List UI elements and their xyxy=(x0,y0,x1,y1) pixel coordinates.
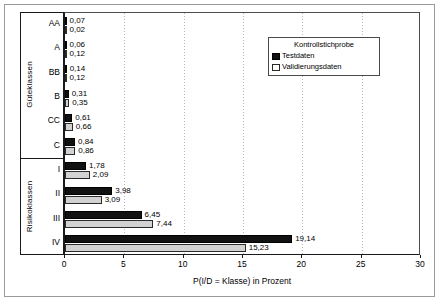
category-label-IV: IV xyxy=(20,238,64,247)
bar-value-label-AA-validierungsdaten: 0,02 xyxy=(70,26,86,34)
legend-label-validierungsdaten: Validierungsdaten xyxy=(282,62,342,72)
bar-BB-testdaten xyxy=(65,65,67,73)
legend-entry-testdaten: Testdaten xyxy=(272,51,376,61)
bar-CC-validierungsdaten xyxy=(65,123,73,131)
bar-value-label-C-validierungsdaten: 0,86 xyxy=(78,147,94,155)
bar-value-label-II-testdaten: 3,98 xyxy=(115,187,131,195)
bar-C-validierungsdaten xyxy=(65,147,75,155)
bar-value-label-I-validierungsdaten: 2,09 xyxy=(93,171,109,179)
bar-value-label-I-testdaten: 1,78 xyxy=(89,162,105,170)
bar-II-validierungsdaten xyxy=(65,196,102,204)
category-label-CC: CC xyxy=(20,116,64,125)
bar-value-label-CC-validierungsdaten: 0,66 xyxy=(76,123,92,131)
legend-label-testdaten: Testdaten xyxy=(282,51,315,61)
x-tick-label-5: 5 xyxy=(121,259,126,269)
bar-value-label-CC-testdaten: 0,61 xyxy=(75,114,91,122)
group-label-gueteklassen: Güteklassen xyxy=(22,12,36,158)
bar-value-label-II-validierungsdaten: 3,09 xyxy=(105,196,121,204)
x-tick-label-10: 10 xyxy=(178,259,187,269)
category-label-B: B xyxy=(20,92,64,101)
x-tick-10 xyxy=(183,255,184,258)
bar-CC-testdaten xyxy=(65,114,72,122)
bar-value-label-AA-testdaten: 0,07 xyxy=(70,17,86,25)
x-tick-20 xyxy=(301,255,302,258)
bar-A-testdaten xyxy=(65,41,67,49)
bar-I-validierungsdaten xyxy=(65,171,90,179)
category-label-AA: AA xyxy=(20,19,64,28)
x-tick-label-0: 0 xyxy=(62,259,67,269)
x-tick-15 xyxy=(242,255,243,258)
x-axis-title: P(I/D = Klasse) in Prozent xyxy=(64,276,420,286)
bar-III-validierungsdaten xyxy=(65,220,153,228)
bar-value-label-B-testdaten: 0,31 xyxy=(72,90,88,98)
legend-swatch-testdaten xyxy=(272,53,280,60)
bar-value-label-IV-validierungsdaten: 15,23 xyxy=(249,244,269,252)
legend: Kontrollstichprobe Testdaten Validierung… xyxy=(268,37,380,76)
bar-BB-validierungsdaten xyxy=(65,74,67,82)
x-tick-0 xyxy=(64,255,65,258)
bar-value-label-C-testdaten: 0,84 xyxy=(78,138,94,146)
bar-value-label-A-testdaten: 0,06 xyxy=(70,41,86,49)
x-tick-label-20: 20 xyxy=(297,259,306,269)
bar-IV-validierungsdaten xyxy=(65,244,246,252)
x-tick-25 xyxy=(361,255,362,258)
bar-I-testdaten xyxy=(65,162,86,170)
category-label-A: A xyxy=(20,43,64,52)
bar-value-label-III-testdaten: 6,45 xyxy=(145,211,161,219)
category-label-I: I xyxy=(20,165,64,174)
gridline-15 xyxy=(243,13,244,254)
legend-title: Kontrollstichprobe xyxy=(272,40,376,50)
bar-AA-testdaten xyxy=(65,17,67,25)
category-label-C: C xyxy=(20,141,64,150)
category-label-BB: BB xyxy=(20,68,64,77)
bar-B-testdaten xyxy=(65,90,69,98)
x-tick-5 xyxy=(123,255,124,258)
category-label-III: III xyxy=(20,214,64,223)
bar-value-label-BB-validierungsdaten: 0,12 xyxy=(70,74,86,82)
x-tick-30 xyxy=(420,255,421,258)
chart-figure: Güteklassen Risikoklassen AAABBBCCCIIIII… xyxy=(0,0,439,301)
bar-IV-testdaten xyxy=(65,235,292,243)
bar-II-testdaten xyxy=(65,187,112,195)
x-tick-label-30: 30 xyxy=(415,259,424,269)
legend-swatch-validierungsdaten xyxy=(272,64,280,71)
x-axis: 051015202530 xyxy=(64,255,421,271)
bar-A-validierungsdaten xyxy=(65,50,67,58)
bar-value-label-B-validierungsdaten: 0,35 xyxy=(72,99,88,107)
bar-value-label-III-validierungsdaten: 7,44 xyxy=(156,220,172,228)
bar-value-label-BB-testdaten: 0,14 xyxy=(70,65,86,73)
bar-III-testdaten xyxy=(65,211,142,219)
bar-AA-validierungsdaten xyxy=(65,26,67,34)
gridline-10 xyxy=(184,13,185,254)
x-tick-label-15: 15 xyxy=(237,259,246,269)
bar-B-validierungsdaten xyxy=(65,99,69,107)
bar-C-testdaten xyxy=(65,138,75,146)
legend-entry-validierungsdaten: Validierungsdaten xyxy=(272,62,376,72)
x-tick-label-25: 25 xyxy=(356,259,365,269)
category-label-II: II xyxy=(20,189,64,198)
bar-value-label-A-validierungsdaten: 0,12 xyxy=(70,50,86,58)
bar-value-label-IV-testdaten: 19,14 xyxy=(295,235,315,243)
